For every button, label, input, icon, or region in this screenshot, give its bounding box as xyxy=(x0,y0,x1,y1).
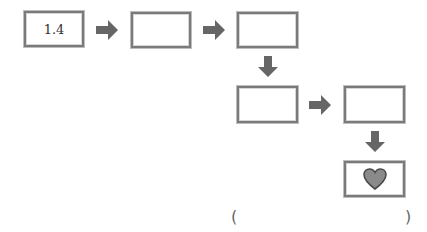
down-arrow-icon xyxy=(365,131,385,152)
down-arrow-icon xyxy=(258,56,278,77)
right-arrow-icon xyxy=(309,95,332,115)
answer-blank[interactable] xyxy=(245,207,400,227)
step-box-5[interactable] xyxy=(344,86,405,123)
step-box-4[interactable] xyxy=(237,86,298,123)
answer-close-paren: ) xyxy=(405,207,411,226)
result-box xyxy=(344,161,405,197)
heart-icon xyxy=(363,168,387,190)
step-box-2[interactable] xyxy=(131,12,191,48)
start-value: 1.4 xyxy=(44,22,65,37)
start-box: 1.4 xyxy=(24,11,84,47)
answer-open-paren: ( xyxy=(231,207,237,226)
step-box-3[interactable] xyxy=(237,12,298,48)
right-arrow-icon xyxy=(203,20,226,40)
right-arrow-icon xyxy=(96,20,119,40)
